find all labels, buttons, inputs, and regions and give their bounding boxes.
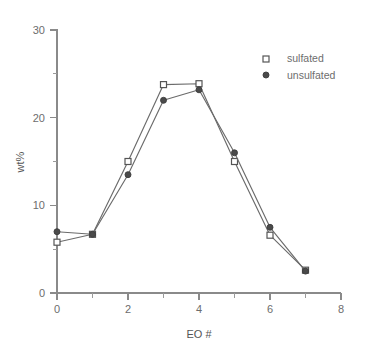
chart-figure: 0 10 20 30 0 2 4 6 8 EO # wt% xyxy=(0,0,374,351)
data-point-marker xyxy=(232,150,238,156)
series-unsulfated-line xyxy=(57,90,306,271)
data-point-marker xyxy=(267,232,273,238)
data-point-marker xyxy=(54,229,60,235)
x-tick-labels: 0 2 4 6 8 xyxy=(54,303,344,315)
data-point-marker xyxy=(303,268,309,274)
x-tick-label-4: 4 xyxy=(196,303,202,315)
data-point-marker xyxy=(90,231,96,237)
y-tick-label-30: 30 xyxy=(33,24,45,36)
y-axis-title: wt% xyxy=(14,151,26,173)
x-tick-label-2: 2 xyxy=(125,303,131,315)
x-tick-label-0: 0 xyxy=(54,303,60,315)
x-tick-label-8: 8 xyxy=(338,303,344,315)
chart-legend: sulfated unsulfated xyxy=(263,52,336,81)
y-tick-label-10: 10 xyxy=(33,199,45,211)
data-point-marker xyxy=(267,224,273,230)
legend-label-unsulfated: unsulfated xyxy=(287,69,336,81)
y-tick-label-20: 20 xyxy=(33,112,45,124)
y-tick-marks xyxy=(50,30,57,293)
legend-marker-sulfated xyxy=(263,56,269,62)
series-sulfated xyxy=(54,81,309,274)
legend-marker-unsulfated xyxy=(263,72,269,78)
data-point-marker xyxy=(161,97,167,103)
x-axis-title: EO # xyxy=(186,328,212,340)
data-point-marker xyxy=(161,82,167,88)
data-point-marker xyxy=(196,87,202,93)
series-sulfated-line xyxy=(57,84,306,271)
y-tick-label-0: 0 xyxy=(39,287,45,299)
series-unsulfated xyxy=(54,87,309,274)
data-point-marker xyxy=(232,159,238,165)
data-point-marker xyxy=(196,81,202,87)
x-tick-label-6: 6 xyxy=(267,303,273,315)
chart-plot-area: 0 10 20 30 0 2 4 6 8 EO # wt% xyxy=(0,0,374,351)
legend-label-sulfated: sulfated xyxy=(287,52,324,64)
y-tick-labels: 0 10 20 30 xyxy=(33,24,45,299)
data-point-marker xyxy=(125,172,131,178)
x-tick-marks xyxy=(57,293,341,300)
data-point-marker xyxy=(54,239,60,245)
data-point-marker xyxy=(125,159,131,165)
